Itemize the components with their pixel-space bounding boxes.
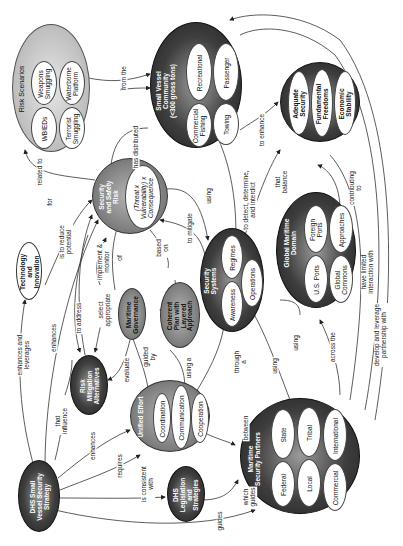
node-risk-scenarios-title: Risk Scenarios [18,66,25,113]
item-towing: Towing [213,103,239,145]
link-label-using-a: using a [186,357,193,380]
item-economic-stability: Economic Stability [334,71,356,135]
node-dhs-legislation: DHS Legislation and Strategies [167,466,205,522]
node-small-vessel-community-title: Small Vessel Community (<300 gross tons) [156,64,176,118]
node-global-maritime-domain-title: Global Maritime Domain [284,219,298,268]
link-label-from-the: from the [121,65,128,91]
link-label-detect-determine-interdict: to detect, determine, and interdict [243,169,257,230]
node-maritime-partners: Maritime Security Partners State Tribal … [240,398,360,514]
link-label-using-risk: using [206,187,213,205]
node-maritime-governance: Maritime Governance [118,288,146,340]
item-cooperation: Cooperation [191,393,209,443]
item-passenger: Passenger [213,43,239,101]
link-label-is-to-reduce: is to reduce potential [59,224,73,260]
node-security-systems: Security Systems Regimes Awareness Opera… [200,228,264,332]
item-risk-formula: (Threat x Vulnerability) x Consequence [125,165,161,229]
link-label-to-enhance: to enhance [259,113,266,147]
link-label-develop-leverage-partnership: develop and leverage partnership with [374,303,388,367]
link-label-that-influence: that influence [55,407,69,435]
item-international: International [323,409,347,461]
link-label-using-gmd: using [293,334,300,352]
node-coherent-plan: Coherent Plan with Layered Approach [160,282,200,348]
item-commercial: Commercial [323,463,347,511]
node-technology-innovation: Technology and Innovation [16,242,42,300]
link-label-enhances-top: enhances [51,323,58,353]
item-recreational: Recreational [186,43,212,101]
item-global-commons: Global Commons [329,255,353,303]
node-unified-effort: Unified Effort Coordination Communicatio… [130,380,210,452]
item-weapons-smuggling: Weapons Smuggling [31,61,57,105]
item-communication: Communication [171,385,191,449]
node-small-vessel-community: Small Vessel Community (<300 gross tons)… [150,22,242,148]
item-approaches: Approaches [329,205,353,253]
item-state: State [271,409,295,459]
item-awareness: Awareness [221,281,243,327]
node-balance-goals: Adequate Security Fundamental Freedoms E… [280,62,360,142]
link-label-guided-by: guided by [143,346,157,368]
link-label-using-partners: using [272,357,279,375]
link-label-to-address: to address [76,302,83,334]
item-tribal: Tribal [297,407,321,457]
item-wbieds: WBIEDs [31,107,57,149]
link-label-select-appropriate: select appropriate [98,293,112,328]
item-coordination: Coordination [153,393,171,443]
node-unified-effort-title: Unified Effort [138,396,145,437]
link-label-implement-monitor: implement & monitor [97,243,111,281]
item-operations: Operations [241,259,263,307]
link-label-guides: guides [217,510,224,531]
item-adequate-security: Adequate Security [288,71,310,135]
link-label-which-guides: which guides [243,486,257,507]
node-global-maritime-domain: Global Maritime Domain Foreign Ports App… [276,192,356,308]
link-label-through-a: through a [234,350,248,374]
link-label-related-to: related to [37,157,44,186]
item-commercial-fishing: Commercial Fishing [186,103,212,147]
item-federal: Federal [271,461,295,507]
item-fundamental-freedoms: Fundamental Freedoms [311,69,333,137]
link-label-is-consistent-with: is consistent with [141,465,155,503]
node-maritime-partners-title: Maritime Security Partners [248,432,262,486]
link-label-contributing-to: contributing to [349,170,363,206]
link-label-requires: requires [117,453,124,478]
node-security-safety-risk: Security and Safety Risk (Threat x Vulne… [92,158,168,234]
link-label-based-on: based on [156,238,170,258]
link-label-enhances-low: enhances [90,431,97,461]
node-dhs-strategy: DHS Small Vessel Security Strategy [18,460,60,532]
link-label-for: for [47,197,54,207]
link-label-across-the: across the [330,331,337,363]
node-risk-scenarios: Risk Scenarios Weapons Smuggling Waterbo… [12,24,90,152]
link-label-to-mitigate: to mitigate [187,212,194,244]
node-security-safety-risk-title: Security and Safety Risk [99,181,119,214]
link-label-between: between [243,415,250,442]
link-label-have-limited-interaction: have limited interaction with [361,249,375,294]
link-label-has-distributed: has distributed [133,125,140,169]
item-regimes: Regimes [221,235,243,279]
link-label-that-balance: that balance [275,170,289,195]
node-security-systems-title: Security Systems [204,268,218,295]
item-foreign-ports: Foreign Ports [304,205,328,253]
item-waterborne-platform: Waterborne Platform [59,61,85,105]
item-local: Local [297,459,321,507]
link-label-evaluate: evaluate [124,357,131,384]
link-label-enhances-and-leverages: enhances and leverages [17,334,31,377]
item-us-ports: U.S. Ports [304,255,328,303]
item-terrorist-smuggling: Terrorist Smuggling [59,107,85,149]
link-label-of: of [117,254,124,261]
node-risk-mitigation: Risk Mitigation Alternatives [70,355,108,415]
